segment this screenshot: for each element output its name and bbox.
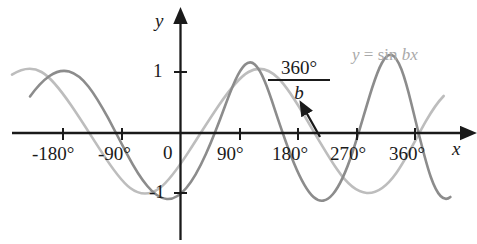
curve-label-lhs: y bbox=[352, 45, 360, 64]
curve-label-sin-bx: y = sin bx bbox=[352, 45, 418, 65]
period-annotation-denominator: b bbox=[268, 82, 330, 103]
x-tick-label-90: 90° bbox=[217, 143, 244, 165]
fraction-bar bbox=[268, 79, 330, 81]
curve-label-arg: bx bbox=[402, 45, 418, 64]
y-tick-label-neg1: -1 bbox=[149, 181, 165, 203]
x-tick-label--180: -180° bbox=[32, 143, 74, 165]
curve-label-fn: sin bbox=[378, 45, 398, 64]
period-annotation: 360° b bbox=[268, 58, 330, 103]
curve-sin-x bbox=[12, 69, 444, 194]
x-tick-label--90: -90° bbox=[98, 143, 131, 165]
period-annotation-numerator: 360° bbox=[268, 58, 330, 79]
x-tick-label-180: 180° bbox=[272, 143, 308, 165]
curve-sin-bx bbox=[30, 55, 450, 201]
x-tick-label-270: 270° bbox=[330, 143, 366, 165]
origin-label: 0 bbox=[163, 142, 173, 164]
figure-canvas: y x 0 1 -1 -180° -90° 90° 180° 270° 360°… bbox=[0, 0, 477, 244]
curve-label-eq: = bbox=[360, 45, 378, 64]
x-tick-label-360: 360° bbox=[389, 143, 425, 165]
graph-svg bbox=[0, 0, 477, 244]
y-tick-label-1: 1 bbox=[153, 60, 163, 82]
y-axis-label: y bbox=[155, 10, 163, 32]
x-axis-label: x bbox=[452, 138, 460, 160]
